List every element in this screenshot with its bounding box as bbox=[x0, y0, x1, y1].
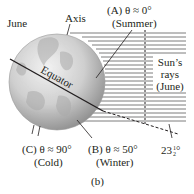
point-b-label-line2: (Winter) bbox=[96, 156, 133, 168]
point-c-label-line1: (C) θ ≈ 90° bbox=[22, 143, 72, 155]
month-label: June bbox=[7, 17, 27, 29]
point-c-leader-1 bbox=[32, 125, 34, 134]
sun-rays-label-2: rays bbox=[153, 68, 187, 80]
equator-extension bbox=[103, 111, 178, 134]
tilt-angle-whole: 23 bbox=[161, 144, 172, 156]
earth-tilt-diagram: Equator June Axis (A) θ ≈ 0° (Summer) Su… bbox=[0, 0, 194, 194]
point-a-label-line1: (A) θ ≈ 0° bbox=[107, 4, 152, 16]
point-b-leader bbox=[77, 120, 92, 138]
point-c-leader-2 bbox=[38, 126, 40, 136]
panel-label: (b) bbox=[91, 175, 104, 187]
axis-label: Axis bbox=[65, 12, 86, 24]
point-a-label-line2: (Summer) bbox=[112, 17, 157, 29]
point-b-label-line1: (B) θ ≈ 50° bbox=[88, 143, 138, 155]
tilt-angle-unit: ° bbox=[176, 144, 180, 156]
sun-rays-label-1: Sun’s bbox=[153, 56, 187, 68]
point-c-label-line2: (Cold) bbox=[34, 156, 63, 168]
tilt-angle-tick bbox=[169, 124, 172, 138]
sun-rays-label-3: (June) bbox=[153, 80, 187, 92]
tilt-angle-label: 2312° bbox=[161, 144, 180, 157]
axis-leader bbox=[67, 24, 70, 35]
